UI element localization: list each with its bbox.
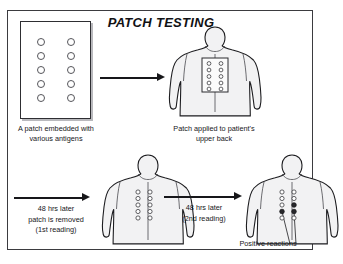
patch-card-row xyxy=(37,94,75,102)
caption-patch-applied: Patch applied to patient's upper back xyxy=(158,124,270,144)
arrow-shaft xyxy=(164,196,235,198)
arrow-head-icon xyxy=(82,193,90,201)
patch-card-row xyxy=(37,66,75,74)
caption-line: Patch applied to patient's xyxy=(158,124,270,134)
label-line: (1st reading) xyxy=(10,225,102,236)
antigen-well-icon xyxy=(37,52,45,60)
antigen-well-icon xyxy=(37,66,45,74)
label-line: (2nd reading) xyxy=(160,214,248,225)
patch-card-row xyxy=(37,52,75,60)
label-second-reading: 48 hrs later (2nd reading) xyxy=(160,203,248,224)
antigen-well-icon xyxy=(37,38,45,46)
caption-positive-reactions: Positive reactions xyxy=(222,239,314,249)
patch-card-row xyxy=(37,80,75,88)
antigen-well-icon xyxy=(67,38,75,46)
antigen-well-icon xyxy=(67,52,75,60)
figure-patch-removed xyxy=(96,152,200,250)
patch-card-dot-grid xyxy=(21,22,90,118)
label-line: 48 hrs later xyxy=(10,204,102,215)
caption-line: A patch embedded with xyxy=(6,124,106,134)
caption-line: upper back xyxy=(158,134,270,144)
antigen-well-icon xyxy=(67,80,75,88)
label-line: 48 hrs later xyxy=(160,203,248,214)
caption-line: various antigens xyxy=(6,134,106,144)
patch-card-row xyxy=(37,38,75,46)
arrow-shaft xyxy=(100,77,158,79)
antigen-well-icon xyxy=(37,80,45,88)
patch-card xyxy=(20,21,91,119)
figure-patch-applied xyxy=(163,24,267,122)
arrow-shaft xyxy=(14,197,83,199)
arrow-48hrs-first-reading xyxy=(14,193,90,202)
caption-patch-card: A patch embedded with various antigens xyxy=(6,124,106,144)
antigen-well-icon xyxy=(37,94,45,102)
antigen-well-icon xyxy=(67,66,75,74)
arrow-patch-to-back xyxy=(100,73,165,82)
label-line: patch is removed xyxy=(10,215,102,226)
label-first-reading: 48 hrs later patch is removed (1st readi… xyxy=(10,204,102,236)
antigen-well-icon xyxy=(67,94,75,102)
arrow-48hrs-second-reading xyxy=(164,192,242,201)
figure-positive-reactions xyxy=(240,152,343,250)
